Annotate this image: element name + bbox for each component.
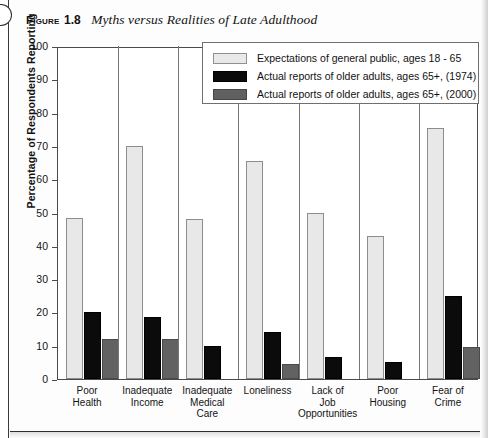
- bar: [144, 317, 161, 379]
- legend-item: Expectations of general public, ages 18 …: [213, 49, 470, 67]
- x-axis-tick-label: Fear ofCrime: [410, 385, 486, 408]
- x-axis-tick-labels: PoorHealthInadequateIncomeInadequateMedi…: [57, 385, 478, 433]
- bar-group: [58, 48, 118, 379]
- binder-hole-icon: [0, 4, 12, 26]
- bar: [162, 339, 179, 379]
- legend-swatch-icon: [213, 71, 247, 82]
- bar: [325, 357, 342, 379]
- bar: [66, 218, 83, 380]
- legend-item-label: Actual reports of older adults, ages 65+…: [257, 70, 476, 82]
- bar-group: [118, 48, 178, 379]
- bar: [84, 312, 101, 379]
- bar: [246, 161, 263, 379]
- chart-legend: Expectations of general public, ages 18 …: [202, 42, 479, 104]
- y-axis-tick-label: 40: [18, 240, 48, 252]
- bar: [445, 296, 462, 379]
- bar: [385, 362, 402, 379]
- legend-swatch-icon: [213, 53, 247, 64]
- figure-number: 1.8: [64, 13, 81, 27]
- figure-caption: Figure 1.8 Myths versus Realities of Lat…: [26, 10, 317, 28]
- bar: [126, 146, 143, 379]
- y-axis-tick-label: 30: [18, 273, 48, 285]
- y-axis-tick-mark: [52, 380, 57, 381]
- bar: [463, 347, 480, 379]
- legend-item: Actual reports of older adults, ages 65+…: [213, 85, 470, 103]
- legend-item-label: Actual reports of older adults, ages 65+…: [257, 88, 476, 100]
- bar: [204, 346, 221, 379]
- bar: [307, 213, 324, 380]
- legend-swatch-icon: [213, 89, 247, 100]
- legend-item: Actual reports of older adults, ages 65+…: [213, 67, 470, 85]
- bar: [282, 364, 299, 379]
- page-spine-rule: [8, 0, 9, 438]
- bar: [264, 332, 281, 379]
- y-axis-title: Percentage of Respondents Reporting: [25, 0, 37, 226]
- figure-title: Myths versus Realities of Late Adulthood: [91, 12, 317, 27]
- y-axis-tick-label: 0: [18, 373, 48, 385]
- bar: [427, 128, 444, 379]
- bar: [102, 339, 119, 379]
- y-axis-tick-label: 10: [18, 340, 48, 352]
- bar: [186, 219, 203, 379]
- y-axis-tick-label: 20: [18, 306, 48, 318]
- figure-page: Figure 1.8 Myths versus Realities of Lat…: [0, 0, 488, 438]
- page-right-shadow: [481, 0, 488, 438]
- bar: [367, 236, 384, 379]
- legend-item-label: Expectations of general public, ages 18 …: [257, 52, 461, 64]
